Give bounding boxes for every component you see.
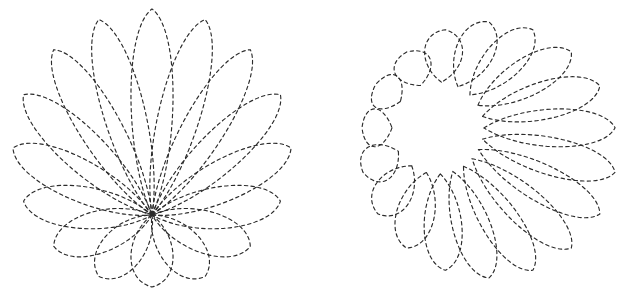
petal-arc bbox=[152, 143, 291, 215]
petal-arc bbox=[483, 134, 615, 181]
petal-arc bbox=[449, 172, 497, 278]
petal-arc bbox=[152, 185, 280, 228]
figure-panel bbox=[0, 0, 633, 295]
petal-arc bbox=[150, 20, 212, 215]
petal-arc bbox=[484, 109, 615, 147]
petal-arc bbox=[478, 47, 571, 106]
spirograph-figure-canvas bbox=[0, 0, 633, 295]
petal-arc bbox=[394, 51, 431, 86]
left-rosette bbox=[13, 9, 291, 287]
petal-arc bbox=[24, 185, 152, 228]
petal-arc bbox=[454, 22, 498, 87]
petal-arc bbox=[372, 166, 415, 216]
petal-arc bbox=[151, 215, 209, 279]
petal-arc bbox=[152, 94, 281, 215]
petal-arc bbox=[51, 50, 152, 215]
petal-arc bbox=[362, 109, 392, 147]
petal-arc bbox=[479, 149, 600, 217]
petal-arc bbox=[470, 28, 535, 95]
petal-arc bbox=[424, 174, 462, 270]
petal-arc bbox=[425, 30, 463, 82]
petal-arc bbox=[23, 94, 152, 215]
petal-arc bbox=[483, 77, 600, 122]
petal-arc bbox=[92, 20, 154, 215]
petal-arc bbox=[95, 215, 153, 279]
petal-arc bbox=[13, 143, 152, 215]
petal-arc bbox=[395, 173, 435, 249]
petal-arc bbox=[361, 145, 399, 182]
petal-arc bbox=[464, 166, 536, 270]
petal-arc bbox=[371, 75, 402, 109]
right-rosette bbox=[361, 22, 615, 278]
